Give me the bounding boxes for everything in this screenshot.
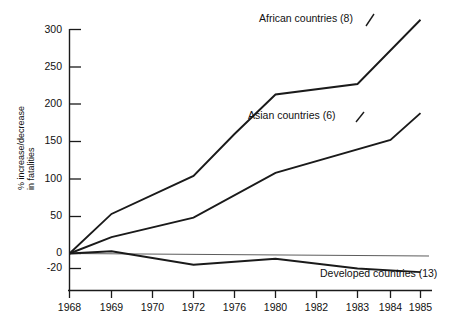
- developed-series-label: Developed countries (13): [320, 267, 437, 279]
- x-tick-label: 1980: [264, 301, 288, 313]
- x-tick-label: 1985: [409, 301, 433, 313]
- x-tick-label: 1984: [379, 301, 403, 313]
- y-tick-label: 50: [50, 209, 62, 221]
- asian-label-leader: [356, 112, 364, 122]
- african-label-leader: [366, 14, 374, 26]
- x-axis-ticks: [70, 291, 421, 299]
- y-tick-label: 300: [44, 23, 62, 35]
- y-axis-title: % increase/decrease in fatalities: [16, 106, 36, 190]
- y-tick-label: 250: [44, 60, 62, 72]
- y-axis-title-line1: % increase/decrease: [16, 106, 26, 190]
- y-axis-tick-labels: 300 250 200 150 100 50 0 -20: [44, 23, 62, 273]
- y-tick-label: 150: [44, 134, 62, 146]
- y-tick-label: 0: [56, 246, 62, 258]
- x-tick-label: 1969: [100, 301, 124, 313]
- chart-container: % increase/decrease in fatalities 300 25…: [0, 0, 457, 328]
- y-tick-label: -20: [47, 261, 62, 273]
- x-tick-label: 1983: [346, 301, 370, 313]
- african-series-label: African countries (8): [259, 12, 353, 24]
- y-tick-label: 200: [44, 97, 62, 109]
- x-tick-label: 1982: [305, 301, 329, 313]
- line-chart: % increase/decrease in fatalities 300 25…: [0, 0, 457, 328]
- y-tick-label: 100: [44, 172, 62, 184]
- x-tick-label: 1968: [58, 301, 82, 313]
- asian-series-label: Asian countries (6): [248, 109, 336, 121]
- asian-series: [70, 113, 421, 253]
- african-series: [70, 20, 421, 254]
- x-tick-label: 1972: [182, 301, 206, 313]
- x-tick-label: 1976: [223, 301, 247, 313]
- x-tick-label: 1970: [141, 301, 165, 313]
- y-axis-title-line2: in fatalities: [26, 147, 36, 190]
- x-axis-tick-labels: 1968 1969 1970 1972 1976 1980 1982 1983 …: [58, 301, 433, 313]
- y-axis-ticks: [70, 30, 82, 269]
